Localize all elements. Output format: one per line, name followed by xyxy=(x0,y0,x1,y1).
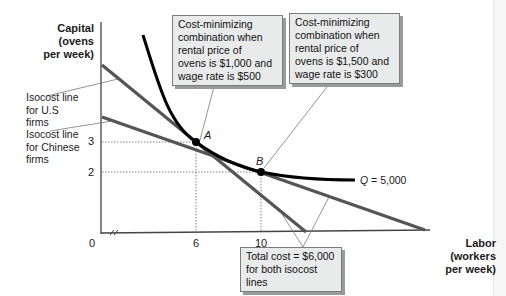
callout-a-line1: Cost-minimizing xyxy=(178,18,277,31)
origin-label: 0 xyxy=(89,237,95,249)
x-title-line3: per week) xyxy=(420,263,496,276)
callout-b-line3: rental price of xyxy=(295,42,394,55)
x-title-line2: (workers xyxy=(420,250,496,263)
callout-point-b: Cost-minimizing combination when rental … xyxy=(289,13,400,84)
label-isocost-china: Isocost line for Chinese firms xyxy=(26,128,80,166)
y-title-line2: (ovens xyxy=(30,35,94,48)
label-china-line1: Isocost line xyxy=(26,128,80,141)
leader-total-china xyxy=(303,197,329,247)
callout-point-a: Cost-minimizing combination when rental … xyxy=(172,15,283,86)
y-tick-3: 3 xyxy=(88,135,94,147)
leader-b xyxy=(264,74,337,168)
point-a-label: A xyxy=(204,129,211,141)
callout-b-line1: Cost-minimizing xyxy=(295,16,394,29)
callout-a-line4: ovens is $1,000 and xyxy=(178,57,277,70)
label-us-line2: for U.S xyxy=(26,104,79,117)
label-china-line3: firms xyxy=(26,153,80,166)
callout-a-line3: rental price of xyxy=(178,44,277,57)
label-china-line2: for Chinese xyxy=(26,141,80,154)
x-tick-6: 6 xyxy=(193,237,199,249)
callout-b-line4: ovens is $1,500 and xyxy=(295,55,394,68)
point-b-label: B xyxy=(256,155,263,167)
y-axis-title: Capital (ovens per week) xyxy=(30,22,94,61)
point-a-marker xyxy=(192,138,200,146)
x-title-line1: Labor xyxy=(420,237,496,250)
callout-total-line1: Total cost = $6,000 xyxy=(246,250,336,263)
label-us-line1: Isocost line xyxy=(26,91,79,104)
label-us-line3: firms xyxy=(26,116,79,129)
callout-a-line5: wage rate is $500 xyxy=(178,70,277,83)
leader-total-us xyxy=(280,211,303,247)
callout-total-cost: Total cost = $6,000 for both isocost lin… xyxy=(240,247,342,292)
callout-total-line2: for both isocost lines xyxy=(246,263,336,289)
isoquant-label: Q = 5,000 xyxy=(360,174,406,186)
callout-b-line2: combination when xyxy=(295,29,394,42)
callout-a-line2: combination when xyxy=(178,31,277,44)
y-tick-2: 2 xyxy=(88,166,94,178)
point-b-marker xyxy=(257,168,265,176)
y-title-line1: Capital xyxy=(30,22,94,35)
callout-b-line5: wage rate is $300 xyxy=(295,68,394,81)
y-title-line3: per week) xyxy=(30,48,94,61)
x-axis xyxy=(101,230,430,233)
x-axis-title: Labor (workers per week) xyxy=(420,237,496,276)
label-isocost-us: Isocost line for U.S firms xyxy=(26,91,79,129)
